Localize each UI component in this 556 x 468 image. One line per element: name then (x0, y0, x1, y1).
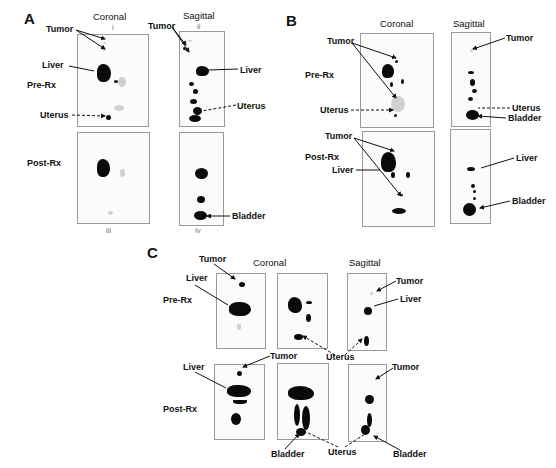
subpanel-label-i: i (112, 23, 114, 32)
annotation-tumor: Tumor (396, 276, 423, 286)
annotation-tumor: Tumor (327, 36, 354, 46)
annotation-tumor: Tumor (506, 33, 533, 43)
annotation-uterus: Uterus (237, 101, 266, 111)
scan-b-coronal-pre (360, 33, 434, 128)
column-header-sagittal: Sagittal (349, 257, 381, 268)
scan-b-coronal-post (362, 131, 435, 227)
annotation-tumor: Tumor (46, 24, 73, 34)
column-header-sagittal: Sagittal (183, 10, 215, 21)
annotation-tumor: Tumor (270, 351, 297, 361)
annotation-liver: Liver (183, 362, 205, 372)
row-label-pre-rx: Pre-Rx (305, 70, 334, 80)
annotation-uterus: Uterus (328, 447, 357, 457)
annotation-uterus: Uterus (512, 103, 541, 113)
annotation-uterus: Uterus (320, 105, 349, 115)
annotation-bladder: Bladder (232, 211, 266, 221)
scan-a-coronal-pre (77, 34, 149, 127)
annotation-tumor: Tumor (392, 362, 419, 372)
subpanel-label-ii: ii (197, 22, 201, 31)
annotation-bladder: Bladder (512, 196, 546, 206)
row-label-pre-rx: Pre-Rx (163, 295, 192, 305)
annotation-liver: Liver (516, 153, 538, 163)
row-label-post-rx: Post-Rx (305, 152, 339, 162)
panel-letter-c: C (147, 244, 158, 261)
panel-letter-a: A (24, 10, 35, 27)
annotation-uterus: Uterus (40, 110, 69, 120)
annotation-uterus: Uterus (326, 352, 355, 362)
scan-c-sagittal-pre (347, 273, 387, 351)
annotation-liver: Liver (240, 65, 262, 75)
scan-b-sagittal-post (450, 129, 491, 224)
scan-c-coronal-post-2 (277, 363, 329, 440)
row-label-post-rx: Post-Rx (27, 158, 61, 168)
scan-c-coronal-post-1 (214, 364, 265, 440)
annotation-bladder: Bladder (508, 113, 542, 123)
scan-a-sagittal-post (179, 132, 224, 226)
column-header-coronal: Coronal (380, 18, 413, 29)
subpanel-label-iii: iii (106, 226, 111, 235)
subpanel-label-iv: iv (195, 226, 201, 235)
annotation-tumor: Tumor (148, 21, 175, 31)
scan-c-coronal-pre-1 (216, 273, 266, 349)
scan-c-sagittal-post (348, 364, 387, 442)
row-label-pre-rx: Pre-Rx (27, 80, 56, 90)
column-header-coronal: Coronal (93, 11, 126, 22)
annotation-liver: Liver (400, 294, 422, 304)
annotation-liver: Liver (186, 273, 208, 283)
annotation-tumor: Tumor (199, 254, 226, 264)
column-header-coronal: Coronal (253, 257, 286, 268)
scan-b-sagittal-pre (451, 32, 491, 127)
annotation-liver: Liver (42, 60, 64, 70)
annotation-bladder: Bladder (393, 449, 427, 459)
annotation-tumor: Tumor (325, 131, 352, 141)
annotation-liver: Liver (332, 165, 354, 175)
scan-a-sagittal-pre (179, 31, 225, 127)
scan-a-coronal-post (77, 132, 150, 224)
panel-letter-b: B (286, 12, 297, 29)
column-header-sagittal: Sagittal (453, 18, 485, 29)
annotation-bladder: Bladder (271, 449, 305, 459)
scan-c-coronal-pre-2 (277, 273, 328, 349)
row-label-post-rx: Post-Rx (163, 404, 197, 414)
